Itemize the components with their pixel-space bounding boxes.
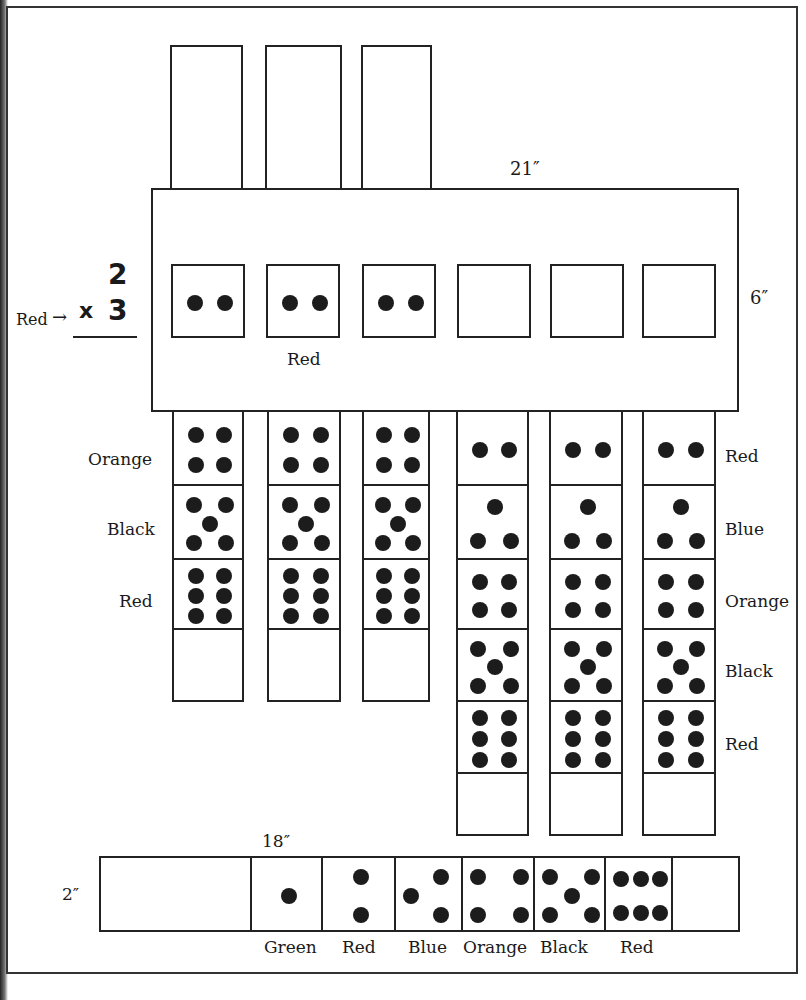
pip-dot [503,533,519,549]
pip-dot [565,442,581,458]
pip-dot [218,535,234,551]
pip-dot [580,499,596,515]
pip-dot [584,907,600,923]
left-col-1-cell-3 [172,558,244,630]
top-slot-2 [265,45,342,191]
pip-dot [313,427,329,443]
pip-dot [501,442,517,458]
pip-dot [657,641,673,657]
right-row-label-red: Red [725,446,759,466]
pip-dot [564,678,580,694]
left-row-label-black: Black [107,519,155,539]
right-row-label-black: Black [725,661,773,681]
pip-dot [375,497,391,513]
right-row-label-red-2: Red [725,734,759,754]
pip-dot [652,871,668,887]
pip-dot [487,659,503,675]
pip-dot [390,516,406,532]
pip-dot [565,731,581,747]
pip-dot [688,731,704,747]
pip-dot [283,568,299,584]
pip-dot [216,608,232,624]
right-col-2-cell-6 [549,772,623,836]
left-row-label-orange: Orange [88,449,152,469]
pip-dot [470,641,486,657]
right-col-2-cell-2 [549,484,623,560]
pip-dot [312,295,328,311]
pip-dot [689,678,705,694]
pip-dot [657,678,673,694]
pip-dot [503,641,519,657]
pip-dot [595,710,611,726]
left-col-1-cell-4 [172,628,244,702]
pip-dot [282,497,298,513]
left-col-2-cell-4 [267,628,341,702]
right-col-3-cell-1 [642,410,716,486]
pip-dot [216,427,232,443]
main-square-6 [642,264,716,338]
pip-dot [313,588,329,604]
top-slot-3 [361,45,432,191]
right-col-2-cell-1 [549,410,623,486]
pip-dot [283,588,299,604]
pip-dot [313,457,329,473]
pip-dot [186,497,202,513]
main-width-label: 21″ [510,158,540,179]
right-col-1-cell-6 [456,772,529,836]
left-col-2-cell-3 [267,558,341,630]
pip-dot [564,888,580,904]
pip-dot [658,731,674,747]
pip-dot [433,869,449,885]
pip-dot [470,869,486,885]
strip-label-5: Black [540,937,588,957]
pip-dot [633,871,649,887]
equation-bottom: 3 [108,294,127,327]
pip-dot [470,533,486,549]
pip-dot [542,907,558,923]
pip-dot [314,497,330,513]
pip-dot [595,731,611,747]
equation-pointer-label: Red [16,310,48,329]
pip-dot [313,568,329,584]
pip-dot [376,568,392,584]
left-col-1-cell-1 [172,410,244,486]
pip-dot [513,907,529,923]
equation-top: 2 [108,258,127,291]
pip-dot [378,295,394,311]
strip-cell-5 [533,856,606,932]
pip-dot [487,499,503,515]
pip-dot [613,871,629,887]
pip-dot [501,710,517,726]
pip-dot [580,659,596,675]
pip-dot [216,457,232,473]
left-col-3-cell-3 [362,558,430,630]
main-squares-label: Red [287,349,321,369]
main-square-4 [457,264,531,338]
right-col-3-cell-4 [642,628,716,702]
pip-dot [564,533,580,549]
pip-dot [404,568,420,584]
pip-dot [281,888,297,904]
pip-dot [513,869,529,885]
equation-operator: x [79,298,93,323]
pip-dot [688,710,704,726]
pip-dot [186,535,202,551]
pip-dot [658,752,674,768]
left-col-2-cell-1 [267,410,341,486]
pip-dot [565,752,581,768]
pip-dot [472,752,488,768]
pip-dot [584,869,600,885]
pip-dot [405,535,421,551]
strip-label-3: Blue [408,937,447,957]
pip-dot [433,907,449,923]
strip-cell-2 [321,856,396,932]
pip-dot [472,731,488,747]
right-col-1-cell-1 [456,410,529,486]
pip-dot [404,588,420,604]
right-col-1-cell-2 [456,484,529,560]
pip-dot [188,608,204,624]
strip-label-1: Green [264,937,317,957]
pip-dot [658,442,674,458]
pip-dot [188,427,204,443]
strip-label-6: Red [620,937,654,957]
